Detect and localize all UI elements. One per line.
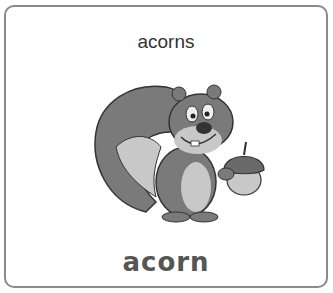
squirrel-acorn-illustration	[86, 62, 266, 227]
card-caption: acorns	[6, 31, 326, 53]
card-word: acorn	[6, 247, 326, 277]
flashcard: acorns acorn	[4, 5, 328, 288]
